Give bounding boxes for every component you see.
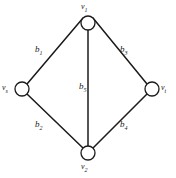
edge-label-b5-sub: 5 (84, 87, 87, 93)
vertex-v1-circle (81, 16, 95, 30)
vertex-label-vs-sub: s (6, 88, 8, 94)
vertex-label-v2-sub: 2 (85, 167, 88, 173)
edge-label-b1-sub: 1 (40, 50, 43, 56)
edge-label-b3-sub: 3 (125, 50, 128, 56)
graph-diagram: v1 vs vt v2 b1 b3 b5 b2 b4 (0, 0, 176, 178)
vertex-v2-circle (81, 146, 95, 160)
edge-label-b2: b2 (35, 120, 43, 131)
edge-label-b1: b1 (35, 45, 43, 56)
vertex-vs-circle (15, 82, 29, 96)
vertex-vt-circle (145, 82, 159, 96)
graph-canvas (0, 0, 176, 178)
vertex-label-v1-sub: 1 (85, 7, 88, 13)
edge-label-b5: b5 (79, 82, 87, 93)
edge-label-b4-sub: 4 (125, 125, 128, 131)
vertex-label-vt: vt (161, 84, 166, 94)
edge-label-b2-sub: 2 (40, 125, 43, 131)
edge-label-b3: b3 (120, 45, 128, 56)
edge-lines (27, 18, 147, 148)
vertex-label-v1: v1 (81, 3, 88, 13)
vertex-label-v2: v2 (81, 163, 88, 173)
vertex-circles (15, 16, 159, 160)
vertex-label-vt-sub: t (165, 88, 167, 94)
edge-label-b4: b4 (120, 120, 128, 131)
vertex-label-vs: vs (2, 84, 8, 94)
